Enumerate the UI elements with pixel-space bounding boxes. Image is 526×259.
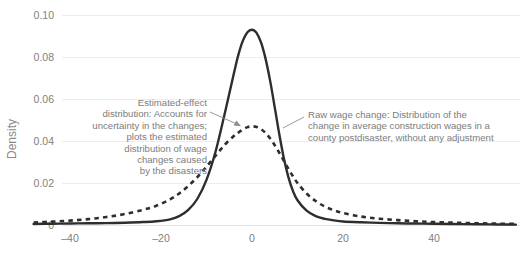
y-tick-label: 0.10 bbox=[34, 9, 55, 21]
x-axis-tick-labels: –40–2002040 bbox=[61, 232, 440, 244]
annotation-line: distribution of wage bbox=[124, 143, 207, 154]
y-tick-label: 0.04 bbox=[34, 135, 55, 147]
y-axis-title: Density bbox=[5, 119, 19, 159]
x-tick-label: –20 bbox=[152, 232, 170, 244]
y-tick-label: 0.06 bbox=[34, 93, 55, 105]
annotation-line: county postdisaster, without any adjustm… bbox=[308, 132, 494, 143]
x-tick-label: 40 bbox=[428, 232, 440, 244]
annotation-estimated-effect: Estimated-effectdistribution: Accounts f… bbox=[92, 97, 207, 176]
leader-line-raw-wage-change bbox=[283, 117, 304, 128]
annotation-line: distribution: Accounts for bbox=[102, 108, 207, 119]
annotation-line: plots the estimated bbox=[126, 131, 207, 142]
annotation-line: changes caused bbox=[137, 154, 207, 165]
annotation-raw-wage-change: Raw wage change: Distribution of thechan… bbox=[308, 109, 494, 143]
y-tick-label: 0.02 bbox=[34, 177, 55, 189]
x-tick-label: 0 bbox=[249, 232, 255, 244]
annotation-labels: Estimated-effectdistribution: Accounts f… bbox=[92, 97, 494, 176]
density-chart: 00.020.040.060.080.10 –40–2002040 Estima… bbox=[0, 0, 526, 259]
x-tick-label: 20 bbox=[337, 232, 349, 244]
annotation-line: uncertainty in the changes; bbox=[92, 120, 207, 131]
annotation-line: Estimated-effect bbox=[138, 97, 207, 108]
annotation-line: change in average construction wages in … bbox=[308, 120, 491, 131]
annotation-line: Raw wage change: Distribution of the bbox=[308, 109, 467, 120]
y-tick-label: 0.08 bbox=[34, 51, 55, 63]
x-tick-label: –40 bbox=[61, 232, 79, 244]
annotation-line: by the disasters bbox=[140, 165, 207, 176]
y-axis-tick-labels: 00.020.040.060.080.10 bbox=[34, 9, 55, 231]
chart-canvas: 00.020.040.060.080.10 –40–2002040 Estima… bbox=[0, 0, 526, 259]
